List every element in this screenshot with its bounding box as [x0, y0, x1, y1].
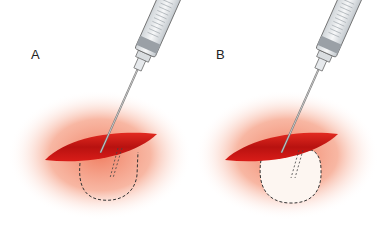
illustration-b — [191, 0, 382, 225]
illustration-a — [0, 0, 191, 225]
panel-label-a: A — [31, 47, 40, 62]
panel-b: B — [191, 0, 382, 225]
panel-a: A — [0, 0, 191, 225]
panel-label-b: B — [216, 47, 225, 62]
